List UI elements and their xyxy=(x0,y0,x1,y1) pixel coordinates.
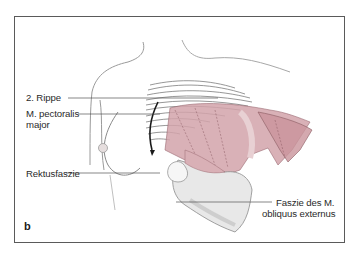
arrow-head xyxy=(150,150,155,156)
breast-outline xyxy=(104,112,140,175)
label-rektusfaszie: Rektusfaszie xyxy=(26,168,80,179)
label-2-rippe: 2. Rippe xyxy=(26,92,61,103)
nipple xyxy=(99,144,108,153)
label-obliquus-2: obliquus externus xyxy=(262,208,336,219)
anatomical-illustration xyxy=(0,0,363,258)
arm-inner-outline xyxy=(100,100,104,170)
label-obliquus-1: Faszie des M. xyxy=(276,197,334,208)
label-pectoralis-major-1: M. pectoralis xyxy=(26,108,79,119)
panel-letter: b xyxy=(24,220,31,232)
label-pectoralis-major-2: major xyxy=(26,119,50,130)
neck-outline xyxy=(182,40,290,72)
midline xyxy=(110,175,115,210)
shoulder-outline xyxy=(90,42,144,165)
